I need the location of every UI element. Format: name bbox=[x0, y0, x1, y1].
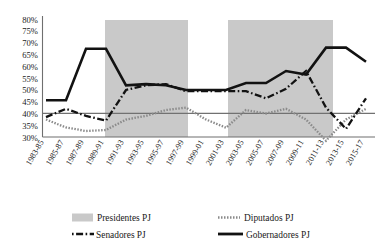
y-tick-label: 75% bbox=[22, 26, 38, 36]
x-tick-label: 1987-89 bbox=[64, 139, 86, 167]
y-tick-label: 45% bbox=[22, 97, 38, 107]
x-tick-label: 1997-99 bbox=[164, 139, 186, 167]
legend-label-diputados: Diputados PJ bbox=[244, 213, 294, 223]
y-tick-label: 40% bbox=[22, 109, 38, 119]
legend-label-senadores: Senadores PJ bbox=[96, 230, 146, 240]
x-tick-label: 2007-09 bbox=[264, 139, 286, 167]
y-tick-label: 35% bbox=[22, 121, 38, 131]
x-tick-label: 1991-93 bbox=[104, 139, 126, 167]
x-tick-label: 1985-87 bbox=[44, 139, 66, 167]
y-tick-label: 80% bbox=[22, 15, 38, 25]
legend-label-gobernadores: Gobernadores PJ bbox=[246, 230, 310, 240]
x-tick-label: 2015-17 bbox=[344, 139, 366, 167]
x-tick-label: 1999-01 bbox=[184, 139, 206, 167]
y-tick-label: 55% bbox=[22, 74, 38, 84]
y-tick-labels-group: 80% 75% 70% 65% 60% 55% 50% 45% 40% 35% … bbox=[22, 15, 38, 143]
y-tick-label: 65% bbox=[22, 50, 38, 60]
x-tick-label: 1993-95 bbox=[124, 139, 146, 167]
line-chart: 80% 75% 70% 65% 60% 55% 50% 45% 40% 35% … bbox=[0, 0, 388, 252]
x-tick-labels-group: 1983-85 1985-87 1987-89 1989-91 1991-93 … bbox=[24, 139, 366, 167]
x-tick-label: 2001-03 bbox=[204, 139, 226, 167]
x-tick-label: 1983-85 bbox=[24, 139, 46, 167]
legend-marker-presidentes bbox=[72, 214, 93, 222]
chart-legend: Presidentes PJ Diputados PJ Senadores PJ… bbox=[72, 213, 310, 240]
legend-label-presidentes: Presidentes PJ bbox=[97, 213, 151, 223]
x-tick-label: 2003-05 bbox=[224, 139, 246, 167]
chart-container: 80% 75% 70% 65% 60% 55% 50% 45% 40% 35% … bbox=[0, 0, 388, 252]
y-tick-label: 70% bbox=[22, 38, 38, 48]
shaded-band-presidentes-1 bbox=[105, 20, 188, 137]
x-tick-label: 2009-11 bbox=[284, 139, 305, 167]
shaded-band-presidentes-2 bbox=[228, 20, 333, 137]
y-tick-label: 60% bbox=[22, 62, 38, 72]
x-tick-label: 2013-15 bbox=[324, 139, 346, 167]
x-tick-label: 1989-91 bbox=[84, 139, 106, 167]
y-tick-label: 50% bbox=[22, 85, 38, 95]
x-tick-label: 2011-13 bbox=[304, 139, 325, 167]
x-tick-label: 1995-97 bbox=[144, 139, 166, 167]
x-tick-label: 2005-07 bbox=[244, 139, 266, 167]
